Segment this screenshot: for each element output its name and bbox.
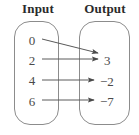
input-value-0: 0 (24, 34, 40, 47)
input-value-2: 4 (24, 74, 40, 87)
output-column-header: Output (82, 1, 128, 17)
input-column-header: Input (16, 1, 60, 17)
input-value-1: 2 (24, 54, 40, 67)
input-value-3: 6 (24, 95, 40, 108)
output-value-1: −2 (100, 75, 114, 88)
mapping-diagram: Input Output 0246 3−2−7 (0, 0, 139, 135)
output-value-2: −7 (100, 95, 114, 108)
output-set-oval (79, 21, 130, 125)
output-value-0: 3 (104, 54, 111, 67)
